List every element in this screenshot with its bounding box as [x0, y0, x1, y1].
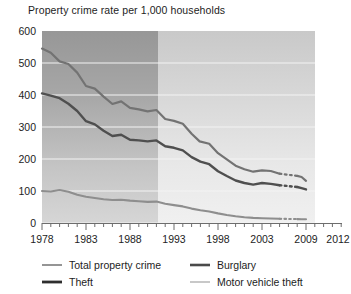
x-tick-1978: 1978 [30, 233, 54, 245]
x-axis-ticks [42, 223, 341, 230]
legend-entry-theft[interactable]: Theft [42, 273, 190, 290]
x-tick-1983: 1983 [74, 233, 98, 245]
x-tick-2003: 2003 [250, 233, 274, 245]
legend-swatch-total-property-crime [42, 256, 62, 274]
legend-entry-burglary[interactable]: Burglary [190, 256, 256, 273]
legend-row-2: Theft Motor vehicle theft [42, 273, 342, 290]
legend-row-1: Total property crime Burglary [42, 256, 342, 273]
y-tick-0: 0 [30, 217, 36, 229]
chart-legend: Total property crime Burglary Theft M [42, 256, 342, 290]
y-tick-300: 300 [18, 121, 36, 133]
y-tick-500: 500 [18, 57, 36, 69]
y-tick-100: 100 [18, 185, 36, 197]
x-tick-2009: 2009 [294, 233, 318, 245]
y-tick-600: 600 [18, 25, 36, 37]
y-tick-400: 400 [18, 89, 36, 101]
legend-swatch-theft [42, 273, 62, 291]
y-axis-tick-labels: 600 500 400 300 200 100 0 [18, 25, 36, 229]
x-tick-1998: 1998 [206, 233, 230, 245]
legend-label-total-property-crime: Total property crime [69, 259, 161, 271]
legend-label-theft: Theft [69, 276, 93, 288]
legend-label-burglary: Burglary [217, 259, 256, 271]
legend-entry-motor-vehicle-theft[interactable]: Motor vehicle theft [190, 273, 303, 290]
y-tick-200: 200 [18, 153, 36, 165]
legend-label-motor-vehicle-theft: Motor vehicle theft [217, 276, 303, 288]
chart-plot-area: 600 500 400 300 200 100 0 [0, 0, 351, 250]
x-tick-1993: 1993 [162, 233, 186, 245]
x-tick-1988: 1988 [118, 233, 142, 245]
legend-swatch-burglary [190, 256, 210, 274]
legend-entry-total-property-crime[interactable]: Total property crime [42, 256, 190, 273]
property-crime-chart: Property crime rate per 1,000 households [0, 0, 351, 294]
x-tick-2012: 2012 [326, 233, 350, 245]
legend-swatch-motor-vehicle-theft [190, 273, 210, 291]
x-axis-tick-labels: 1978 1983 1988 1993 1998 2003 2009 2012 [30, 233, 350, 245]
